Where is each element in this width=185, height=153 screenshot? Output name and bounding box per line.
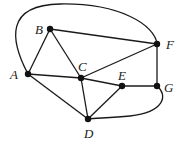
edge-D-E [88, 86, 122, 119]
node-label-D: D [83, 126, 94, 141]
node-G [154, 83, 160, 89]
node-D [85, 116, 91, 122]
edge-A-C [28, 74, 81, 78]
edge-C-D [81, 78, 88, 119]
node-E [119, 83, 125, 89]
node-F [154, 41, 160, 47]
node-label-B: B [35, 22, 43, 37]
graph-svg: ABCDEFG [0, 0, 185, 153]
graph-diagram: ABCDEFG [0, 0, 185, 153]
edge-A-D [28, 74, 88, 119]
edge-G-D [88, 86, 163, 119]
edge-B-C [50, 29, 81, 78]
straight-edges [28, 29, 157, 119]
node-label-C: C [78, 59, 87, 74]
node-B [47, 26, 53, 32]
node-label-G: G [164, 80, 174, 95]
labels: ABCDEFG [9, 22, 175, 141]
node-label-A: A [9, 67, 18, 82]
node-label-F: F [165, 37, 175, 52]
edge-C-E [81, 78, 122, 86]
node-C [78, 75, 84, 81]
node-label-E: E [117, 68, 126, 83]
edge-B-F [50, 29, 157, 44]
node-A [25, 71, 31, 77]
